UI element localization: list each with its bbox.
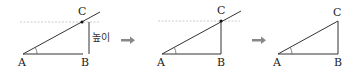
angle-arc (174, 47, 176, 54)
angle-arc (290, 47, 292, 54)
triangle-diagram: C A B 높이 C A B C A B (0, 0, 359, 71)
panel-1: C A B 높이 (17, 5, 110, 69)
point-c (81, 21, 84, 24)
label-a: A (272, 56, 282, 69)
label-b: B (217, 56, 225, 69)
label-c: C (333, 6, 341, 19)
label-b: B (81, 56, 89, 69)
right-arrow-icon (252, 37, 266, 45)
label-a: A (156, 56, 166, 69)
panel-3: C A B (272, 6, 342, 69)
label-b: B (334, 56, 342, 69)
panel-2: C A B (156, 4, 241, 69)
label-c: C (217, 4, 225, 17)
angle-arc (35, 47, 37, 54)
right-arrow-icon (121, 37, 135, 45)
label-a: A (17, 56, 27, 69)
point-c (220, 20, 223, 23)
hypotenuse-extended-line (23, 12, 100, 54)
label-c: C (78, 5, 86, 18)
hypotenuse-extended-line (162, 11, 241, 54)
height-label: 높이 (92, 32, 110, 43)
hypotenuse-line (278, 21, 338, 54)
